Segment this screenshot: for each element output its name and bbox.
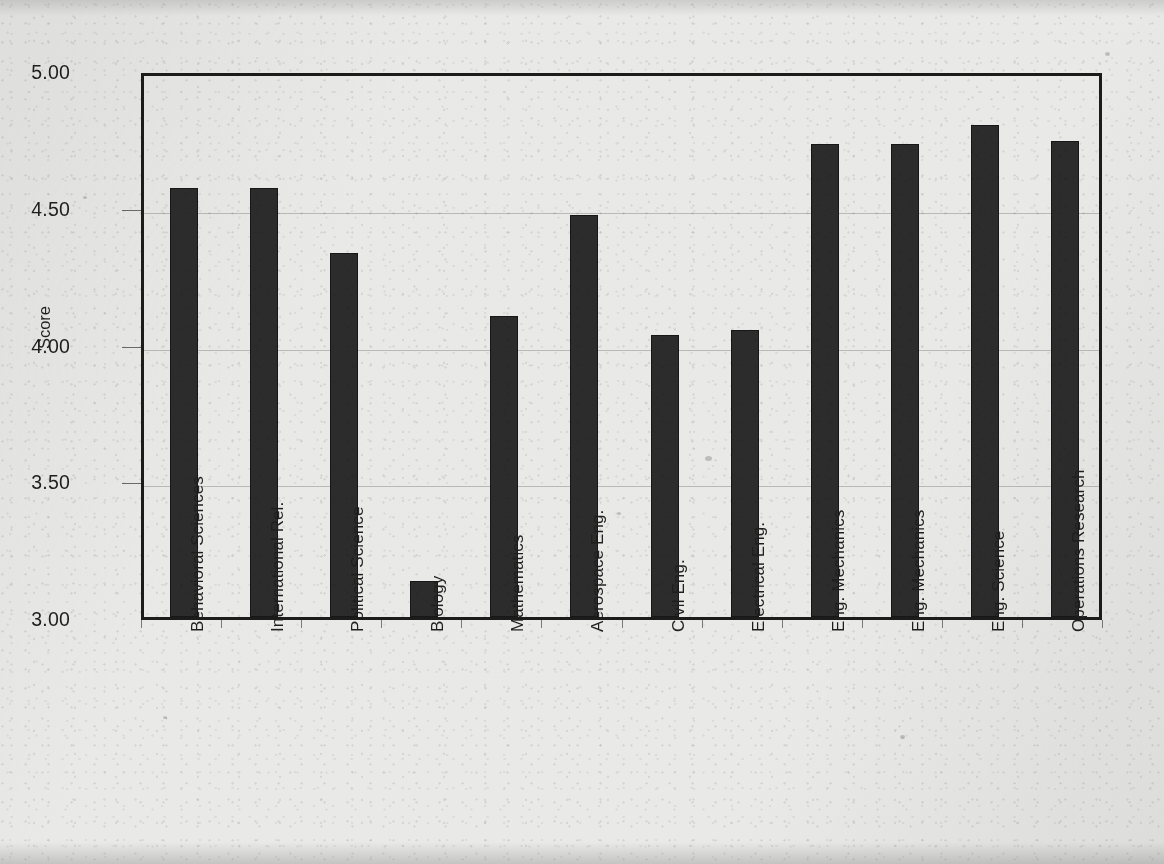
x-tick-mark	[1022, 620, 1023, 628]
x-category-label: International Rel.	[268, 502, 288, 632]
x-tick-mark	[862, 620, 863, 628]
x-category-label: Aerospace Eng.	[588, 510, 608, 632]
y-axis-title: Score	[35, 268, 54, 388]
x-tick-mark	[301, 620, 302, 628]
y-tick-label: 4.50	[6, 198, 70, 221]
x-category-label: Operations Research	[1069, 469, 1089, 632]
x-category-label: Eng. Mechanics	[829, 510, 849, 632]
y-tick-label: 4.00	[6, 335, 70, 358]
x-tick-mark	[1102, 620, 1103, 628]
x-tick-mark	[702, 620, 703, 628]
x-category-label: Political Science	[348, 507, 368, 632]
y-tick-mark	[122, 483, 141, 484]
x-tick-mark	[942, 620, 943, 628]
y-tick-label: 5.00	[6, 61, 70, 84]
x-category-label: Civil Eng.	[669, 559, 689, 632]
y-tick-mark	[122, 347, 141, 348]
x-category-label: Behavioral Sciences	[188, 476, 208, 632]
x-category-label: Electrical Eng.	[749, 522, 769, 632]
x-tick-mark	[461, 620, 462, 628]
x-tick-mark	[622, 620, 623, 628]
x-category-label: Biology	[428, 576, 448, 632]
x-category-label: Mathematics	[508, 535, 528, 632]
x-tick-mark	[381, 620, 382, 628]
bar-chart: Score 5.004.504.003.503.00 Behavioral Sc…	[0, 0, 1164, 864]
x-tick-mark	[541, 620, 542, 628]
x-tick-mark	[782, 620, 783, 628]
y-tick-label: 3.50	[6, 471, 70, 494]
x-tick-mark	[221, 620, 222, 628]
x-category-label: Eng. Mechanics	[909, 510, 929, 632]
x-tick-mark	[141, 620, 142, 628]
y-tick-mark	[122, 210, 141, 211]
y-tick-label: 3.00	[6, 608, 70, 631]
x-category-label: Eng. Science	[989, 531, 1009, 632]
